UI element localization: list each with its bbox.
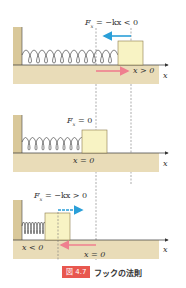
- position-label-1: x > 0: [133, 67, 154, 75]
- axis-label-3: x: [163, 246, 168, 254]
- figure-number-badge: 図 4.7: [62, 266, 90, 278]
- block: [118, 41, 143, 65]
- axis-label-2: x: [163, 160, 168, 168]
- wall: [13, 200, 22, 240]
- figure-caption: 図 4.7 フックの法則: [62, 266, 142, 278]
- spring: [22, 222, 48, 234]
- panel-stretched: [13, 27, 168, 84]
- wall: [13, 115, 22, 153]
- force-label-3: Fx = −kx > 0: [34, 192, 87, 202]
- position-label-3: x < 0: [22, 244, 43, 252]
- force-label-1: Fx = −kx < 0: [85, 19, 138, 29]
- wall: [13, 27, 22, 65]
- spring: [22, 50, 122, 63]
- origin-label-3: x = 0: [84, 251, 105, 259]
- figure-title: フックの法則: [94, 267, 142, 278]
- block: [45, 213, 70, 240]
- axis-label-1: x: [163, 72, 168, 80]
- position-label-2: x = 0: [73, 157, 94, 165]
- block: [82, 130, 107, 153]
- force-label-2: Fx = 0: [67, 117, 92, 127]
- spring: [22, 138, 89, 151]
